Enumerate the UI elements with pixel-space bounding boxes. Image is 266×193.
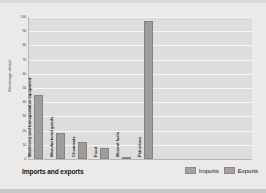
legend-label-imports: Imports	[199, 167, 219, 174]
bar[interactable]	[34, 95, 43, 159]
bar-category-label: Food	[93, 147, 98, 157]
figure-bottom-edge	[0, 189, 266, 193]
bar[interactable]	[100, 148, 109, 159]
y-axis-tick-label: 0	[24, 157, 26, 161]
y-axis-tick-label: 100	[21, 15, 26, 19]
y-axis-title: Percentage of total	[8, 45, 12, 107]
y-axis-tick-label: 80	[22, 43, 26, 47]
legend-item-imports: Imports	[185, 167, 219, 174]
legend-swatch-imports	[185, 167, 196, 174]
y-axis-tick-label: 50	[22, 86, 26, 90]
y-axis-tick-label: 40	[22, 100, 26, 104]
bar-category-label: Manufactured goods	[49, 117, 54, 157]
bar-slot: Manufactured goods	[56, 17, 65, 159]
legend-swatch-exports	[224, 167, 235, 174]
figure-top-edge	[0, 0, 266, 3]
bar-category-label: Chemicals	[71, 137, 76, 158]
chart-legend: Imports Exports	[185, 167, 258, 174]
bar[interactable]	[144, 21, 153, 159]
bar-group: Machinery and transportation equipmentMa…	[29, 17, 252, 159]
legend-item-exports: Exports	[224, 167, 258, 174]
bar-category-label: Machinery and transportation equipment	[27, 78, 32, 157]
bar-slot: Food	[100, 17, 109, 159]
chart-title: Imports and exports	[22, 168, 84, 175]
y-axis-tick-label: 70	[22, 58, 26, 62]
y-axis-tick-label: 20	[22, 129, 26, 133]
bar-category-label: Petroleum	[137, 137, 142, 157]
bar[interactable]	[56, 133, 65, 159]
x-axis-line	[28, 159, 252, 160]
y-axis-tick-label: 30	[22, 114, 26, 118]
chart-figure: 1009080706050403020100 Percentage of tot…	[0, 0, 266, 193]
y-axis-tick-label: 90	[22, 29, 26, 33]
bar-slot: Machinery and transportation equipment	[34, 17, 43, 159]
bar[interactable]	[122, 157, 131, 159]
y-axis-tick-label: 60	[22, 72, 26, 76]
bar[interactable]	[78, 142, 87, 159]
bar-category-label: Mineral fuels	[115, 132, 120, 157]
bar-slot: Mineral fuels	[122, 17, 131, 159]
legend-label-exports: Exports	[238, 167, 258, 174]
bar-slot: Chemicals	[78, 17, 87, 159]
bar-slot: Petroleum	[144, 17, 153, 159]
y-axis-tick-label: 10	[22, 143, 26, 147]
